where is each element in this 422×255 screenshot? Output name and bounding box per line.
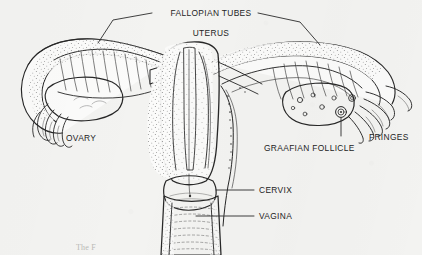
female-reproductive-system-illustration: FALLOPIAN TUBES UTERUS OVARY GRAAFIAN FO… xyxy=(0,0,422,255)
label-ovary: OVARY xyxy=(66,133,96,143)
label-vagina: VAGINA xyxy=(259,211,292,221)
figure-caption: The F xyxy=(76,243,96,252)
anatomical-figure: FALLOPIAN TUBES UTERUS OVARY GRAAFIAN FO… xyxy=(0,0,422,255)
label-uterus: UTERUS xyxy=(193,28,230,38)
label-graafian-follicle: GRAAFIAN FOLLICLE xyxy=(264,143,355,153)
label-fallopian-tubes: FALLOPIAN TUBES xyxy=(171,8,252,18)
label-cervix: CERVIX xyxy=(259,185,292,195)
right-adnexa xyxy=(205,36,412,143)
leader-fallopian-right xyxy=(258,13,320,45)
graafian-follicle-structure xyxy=(336,107,347,118)
leader-fallopian-left xyxy=(98,13,152,43)
label-fringes: FRINGES xyxy=(369,132,409,142)
ovarian-follicles xyxy=(291,93,336,116)
vagina-structure xyxy=(160,196,222,255)
